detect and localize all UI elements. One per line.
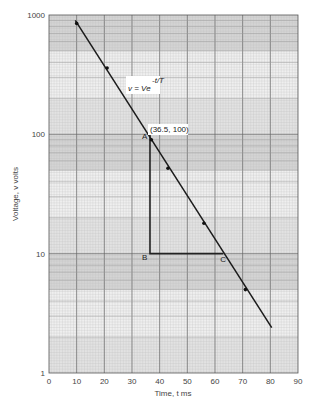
plot-area <box>49 15 298 373</box>
data-point <box>202 221 206 225</box>
x-tick-label: 40 <box>155 377 164 386</box>
x-tick-label: 50 <box>183 377 192 386</box>
x-tick-label: 60 <box>211 377 220 386</box>
y-tick-label: 1 <box>41 369 46 378</box>
x-tick-label: 70 <box>238 377 247 386</box>
x-tick-label: 30 <box>128 377 137 386</box>
equation-label: v = Ve <box>128 84 151 93</box>
vertex-a-label: A <box>142 132 148 141</box>
x-axis-label: Time, t ms <box>154 389 191 398</box>
y-tick-label: 100 <box>32 130 46 139</box>
equation-exponent: -t/T <box>152 76 165 85</box>
data-point <box>150 138 154 142</box>
x-tick-label: 80 <box>266 377 275 386</box>
data-point <box>166 166 170 170</box>
x-tick-label: 10 <box>72 377 81 386</box>
y-tick-label: 10 <box>36 250 45 259</box>
x-tick-label: 0 <box>47 377 52 386</box>
y-tick-label: 1000 <box>27 11 45 20</box>
y-axis-ticks: 1101001000 <box>27 11 45 378</box>
data-point <box>244 288 248 292</box>
point-label: (36.5, 100) <box>150 125 189 134</box>
semilog-chart: 0102030405060708090 1101001000 Time, t m… <box>0 0 314 407</box>
x-tick-label: 90 <box>294 377 303 386</box>
data-point <box>105 66 109 70</box>
x-tick-label: 20 <box>100 377 109 386</box>
vertex-b-label: B <box>142 253 147 262</box>
x-axis-ticks: 0102030405060708090 <box>47 377 303 386</box>
data-point <box>75 22 79 26</box>
vertex-c-label: C <box>220 255 226 264</box>
y-axis-label: Voltage, v volts <box>11 167 20 221</box>
